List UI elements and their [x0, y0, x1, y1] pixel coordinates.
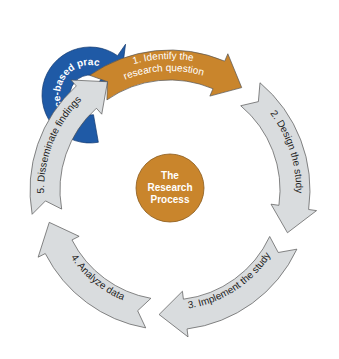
center-line-1: The [161, 170, 179, 181]
center-line-2: Research [147, 182, 192, 193]
step-arrow-3: 3. Implement the study [159, 236, 297, 336]
center-circle: The Research Process [136, 154, 204, 222]
step-arrow-4: 4. Analyze data [38, 222, 151, 328]
center-line-3: Process [151, 194, 190, 205]
step-arrow-5: 5. Disseminate findings [30, 80, 107, 214]
step-arrow-2: 2. Design the study [241, 83, 317, 233]
research-process-diagram: Evidence-based practice1. Identify there… [0, 0, 339, 359]
